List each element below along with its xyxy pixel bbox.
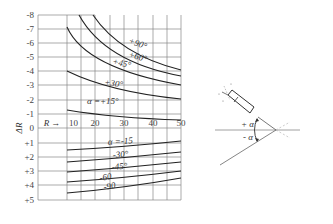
label-minus-30: -30° bbox=[112, 149, 129, 160]
x-axis-label: R → bbox=[43, 118, 61, 128]
x-tick: 20 bbox=[91, 118, 101, 128]
minus-alpha-label: - α bbox=[243, 132, 253, 142]
label-plus-15: α =+15° bbox=[87, 96, 119, 106]
label-minus-90: -90 bbox=[103, 180, 117, 192]
y-tick: +5 bbox=[24, 195, 34, 205]
y-tick: 0 bbox=[30, 123, 35, 133]
x-tick: 30 bbox=[120, 118, 130, 128]
label-minus-15: α =-15 bbox=[107, 135, 133, 147]
x-tick: 10 bbox=[69, 118, 79, 128]
y-tick: -8 bbox=[27, 10, 35, 20]
y-tick: +4 bbox=[24, 180, 34, 190]
y-tick: +1 bbox=[24, 138, 34, 148]
label-minus-45: -45° bbox=[111, 161, 128, 172]
plus-alpha-label: + α bbox=[241, 119, 254, 129]
y-tick: -4 bbox=[27, 66, 35, 76]
y-tick: -5 bbox=[27, 52, 35, 62]
upper-ray bbox=[258, 117, 276, 130]
probe-tool-icon bbox=[218, 83, 254, 113]
diagram-canvas: -8 -7 -6 -5 -4 -3 -2 -1 0 +1 +2 +3 +4 +5… bbox=[0, 0, 333, 224]
y-axis-label: ΔR bbox=[14, 122, 24, 134]
arrow-up-icon bbox=[255, 118, 259, 122]
y-tick: -6 bbox=[27, 38, 35, 48]
y-axis-ticks: -8 -7 -6 -5 -4 -3 -2 -1 0 +1 +2 +3 +4 +5 bbox=[24, 10, 34, 205]
y-tick: -3 bbox=[27, 80, 35, 90]
y-tick: -7 bbox=[27, 24, 35, 34]
label-plus-30: +30° bbox=[104, 77, 124, 90]
y-tick: +2 bbox=[24, 152, 34, 162]
y-tick: +3 bbox=[24, 166, 34, 176]
angle-inset: + α - α bbox=[215, 83, 300, 165]
y-tick: -2 bbox=[27, 95, 35, 105]
y-tick: -1 bbox=[27, 109, 35, 119]
